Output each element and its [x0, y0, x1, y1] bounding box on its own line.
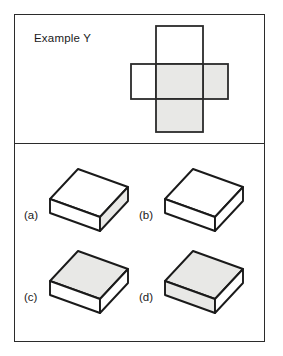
example-panel: Example Y — [14, 14, 265, 143]
net-face-center — [156, 64, 203, 99]
isometric-box-a — [46, 161, 134, 237]
answer-option-b[interactable]: (b) — [137, 157, 249, 245]
net-face-left-flap — [131, 64, 156, 99]
answer-option-c[interactable]: (c) — [22, 239, 134, 327]
answer-options-panel: (a) (b) — [14, 143, 265, 342]
figure-page: Example Y (a) — [0, 0, 283, 356]
answer-option-a[interactable]: (a) — [22, 157, 134, 245]
answer-option-b-label: (b) — [139, 209, 153, 221]
net-face-right-flap — [203, 64, 228, 99]
net-face-top-flap — [156, 26, 203, 64]
isometric-box-c — [46, 243, 134, 319]
net-face-bottom-flap — [156, 99, 203, 132]
isometric-box-d — [161, 243, 249, 319]
answer-option-d-label: (d) — [139, 291, 153, 303]
answer-option-d[interactable]: (d) — [137, 239, 249, 327]
example-label: Example Y — [34, 32, 91, 44]
isometric-box-b — [161, 161, 249, 237]
answer-option-c-label: (c) — [24, 291, 37, 303]
unfolded-box-net — [126, 22, 251, 137]
answer-option-a-label: (a) — [24, 209, 38, 221]
